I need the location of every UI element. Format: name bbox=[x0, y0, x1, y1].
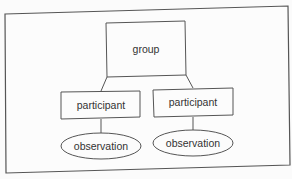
diagram-canvas: group participant participant observatio… bbox=[0, 0, 292, 179]
participant-label-1: participant bbox=[77, 99, 126, 111]
observation-label-1: observation bbox=[74, 140, 128, 152]
observation-label-2: observation bbox=[166, 137, 220, 149]
participant-label-2: participant bbox=[169, 96, 218, 108]
group-label: group bbox=[133, 43, 160, 55]
frame-border bbox=[5, 6, 290, 173]
